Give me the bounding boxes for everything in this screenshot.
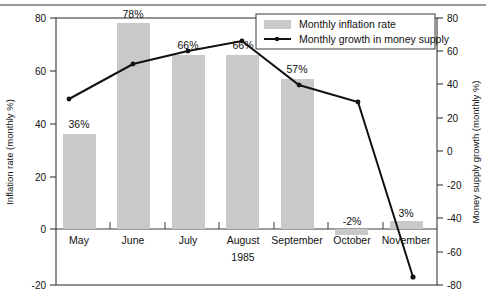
right-tick-label-neg20: -20 <box>447 180 462 191</box>
x-label-september: September <box>271 234 323 246</box>
bar-september[interactable] <box>281 79 314 229</box>
x-axis-title: 1985 <box>231 251 255 263</box>
legend-label-bar: Monthly inflation rate <box>299 18 396 30</box>
bar-label-may: 36% <box>68 118 89 130</box>
right-axis-title: Money supply growth (monthly %) <box>470 80 481 223</box>
left-tick-label-60: 60 <box>35 66 47 77</box>
left-tick-label-neg20: -20 <box>32 280 47 291</box>
line-point-july[interactable] <box>186 49 191 54</box>
legend-label-line: Monthly growth in money supply <box>299 33 450 45</box>
x-label-june: June <box>122 234 145 246</box>
chart-figure: 80 60 40 20 0 -20 Inflation rate (monthl… <box>0 0 486 295</box>
line-point-june[interactable] <box>131 62 136 67</box>
line-point-may[interactable] <box>67 97 72 102</box>
left-tick-label-0: 0 <box>40 224 46 235</box>
right-tick-label-neg40: -40 <box>447 213 462 224</box>
right-tick-label-80: 80 <box>447 13 459 24</box>
left-tick-label-80: 80 <box>35 13 47 24</box>
line-point-october[interactable] <box>356 100 361 105</box>
chart-canvas: 80 60 40 20 0 -20 Inflation rate (monthl… <box>0 0 486 295</box>
right-tick-label-60: 60 <box>447 46 459 57</box>
legend: Monthly inflation rate Monthly growth in… <box>256 14 450 49</box>
x-label-august: August <box>227 234 260 246</box>
line-point-november[interactable] <box>410 274 415 279</box>
x-label-july: July <box>179 234 198 246</box>
left-axis: 80 60 40 20 0 -20 Inflation rate (monthl… <box>4 13 56 291</box>
right-tick-label-neg80: -80 <box>447 280 462 291</box>
left-tick-label-20: 20 <box>35 172 47 183</box>
bar-label-october: -2% <box>343 215 362 227</box>
bar-june[interactable] <box>117 23 150 229</box>
bar-july[interactable] <box>172 55 205 229</box>
bar-label-november: 3% <box>398 207 413 219</box>
right-tick-label-40: 40 <box>447 79 459 90</box>
right-tick-label-20: 20 <box>447 113 459 124</box>
right-tick-label-neg60: -60 <box>447 247 462 258</box>
right-tick-label-0: 0 <box>447 146 453 157</box>
legend-swatch-line-marker <box>275 37 279 41</box>
right-axis: 80 60 40 20 0 -20 -40 -60 -80 Money supp… <box>437 13 481 291</box>
bar-may[interactable] <box>63 134 96 229</box>
left-axis-title: Inflation rate (monthly %) <box>4 99 15 205</box>
bar-label-september: 57% <box>286 63 307 75</box>
line-point-august[interactable] <box>240 39 245 44</box>
x-label-october: October <box>333 234 371 246</box>
x-label-november: November <box>382 234 431 246</box>
bar-label-june: 78% <box>122 8 143 20</box>
line-point-september[interactable] <box>297 83 302 88</box>
bar-august[interactable] <box>226 55 259 229</box>
x-label-may: May <box>69 234 90 246</box>
legend-swatch-bar <box>264 20 291 29</box>
left-tick-label-40: 40 <box>35 119 47 130</box>
